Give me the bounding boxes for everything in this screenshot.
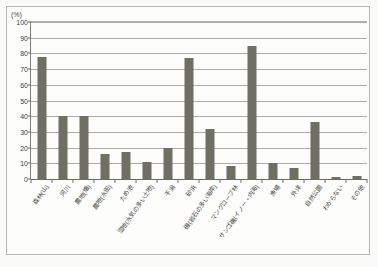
y-tick-mark-30 [28,131,31,132]
gridline-70 [31,69,367,70]
y-tick-label: 70 [20,66,28,73]
x-tick-mark [178,179,179,183]
y-tick-mark-40 [28,116,31,117]
x-tick-mark [115,179,116,183]
bar [79,116,88,179]
bar [205,129,214,179]
gridline-80 [31,53,367,54]
gridline-60 [31,85,367,86]
bar [163,148,172,179]
y-tick-mark-70 [28,69,31,70]
y-tick-label: 40 [20,113,28,120]
y-tick-label: 60 [20,81,28,88]
y-tick-label: 90 [20,34,28,41]
y-tick-label: 100 [16,19,28,26]
bar [184,58,193,179]
plot-area: 0102030405060708090100 森林(山)河川農地(畑)農地(水田… [30,21,367,179]
bar [142,162,151,179]
y-tick-label: 10 [20,160,28,167]
x-tick-mark [304,179,305,183]
x-tick-mark [157,179,158,183]
y-tick-mark-90 [28,37,31,38]
y-axis-unit-label: (%) [11,11,22,18]
y-tick-label: 0 [24,176,28,183]
bar [37,57,46,179]
gridline-90 [31,38,367,39]
y-tick-label: 20 [20,144,28,151]
bar [58,116,67,179]
y-tick-mark-20 [28,147,31,148]
x-tick-mark [136,179,137,183]
x-tick-mark [94,179,95,183]
x-tick-mark [220,179,221,183]
x-tick-mark [199,179,200,183]
x-tick-mark [346,179,347,183]
bar [247,46,256,179]
bar [310,122,319,179]
bar [352,176,361,179]
x-tick-mark [73,179,74,183]
gridline-100 [31,22,367,23]
x-tick-mark [241,179,242,183]
x-tick-mark [283,179,284,183]
y-tick-label: 80 [20,50,28,57]
x-tick-mark [325,179,326,183]
bar [289,168,298,179]
bar [331,177,340,179]
x-tick-mark [262,179,263,183]
y-tick-mark-50 [28,100,31,101]
x-tick-mark [31,179,32,183]
bar [268,163,277,179]
figure-root: (%) 0102030405060708090100 森林(山)河川農地(畑)農… [0,0,378,267]
y-tick-label: 30 [20,128,28,135]
y-tick-mark-60 [28,84,31,85]
bar [226,166,235,179]
y-tick-mark-100 [28,22,31,23]
gridline-50 [31,101,367,102]
bar [121,152,130,179]
y-tick-mark-10 [28,163,31,164]
y-tick-mark-80 [28,53,31,54]
x-tick-mark [367,179,368,183]
bar [100,154,109,179]
y-tick-label: 50 [20,97,28,104]
x-tick-mark [52,179,53,183]
